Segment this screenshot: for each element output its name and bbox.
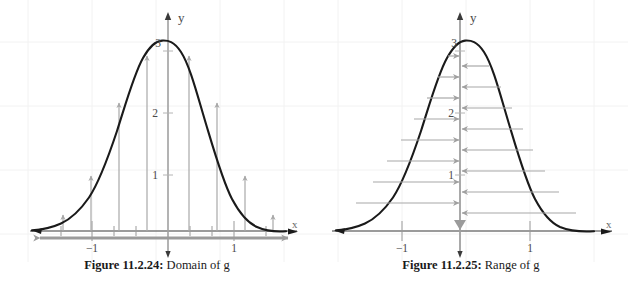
y-axis-top-arrow-icon [457,12,463,20]
plot-area-range: y x −1 1 1 2 3 [314,0,628,262]
range-indicator-arrow-icon [454,220,466,230]
y-tick-label-1: 1 [152,169,158,181]
x-tick-label-1: 1 [527,242,533,254]
domain-plot-svg: y x −1 1 1 2 3 [0,0,314,262]
plot-area-domain: y x −1 1 1 2 3 [0,0,314,262]
x-tick-label-neg1: −1 [396,242,408,254]
x-axis-label: x [606,218,612,230]
y-axis-label: y [178,10,185,25]
range-horizontal-arrows-left [356,56,459,203]
x-axis-label: x [292,218,298,230]
y-tick-label-2: 2 [448,107,454,119]
x-tick-label-neg1: −1 [86,242,98,254]
x-tick-label-1: 1 [231,242,237,254]
range-horizontal-arrows-right [462,66,576,213]
figure-range-of-g: y x −1 1 1 2 3 Figure 11.2.25: Range of … [314,0,628,305]
y-tick-label-3: 3 [451,37,457,49]
background-grid [314,0,628,262]
y-axis-bottom-arrow-icon [457,251,462,258]
range-plot-svg: y x −1 1 1 2 3 [314,0,628,262]
figure-domain-of-g: y x −1 1 1 2 3 Figure 11.2.24: Domain of… [0,0,314,305]
y-axis-bottom-arrow-icon [165,251,170,258]
y-tick-label-1: 1 [448,169,454,181]
y-axis-label: y [470,10,477,25]
gaussian-curve [32,41,286,232]
figure-pair: y x −1 1 1 2 3 Figure 11.2.24: Domain of… [0,0,628,305]
y-axis-top-arrow-icon [165,12,171,20]
y-tick-label-3: 3 [155,37,161,49]
y-tick-label-2: 2 [152,107,158,119]
